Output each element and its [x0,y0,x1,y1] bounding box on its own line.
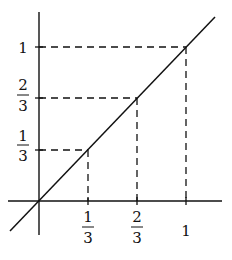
y-label-2-3: 2 3 [17,76,29,115]
x-label-2-3: 2 3 [131,208,143,247]
x-label-1: 1 [181,222,191,240]
x-label-2-3-den: 3 [132,229,142,247]
y-label-1-3-num: 1 [18,127,28,145]
identity-diagram: 1 3 2 3 1 1 3 2 3 1 [0,0,232,260]
identity-line [10,17,215,231]
x-label-2-3-num: 2 [132,208,142,226]
x-label-1-3-den: 3 [83,229,93,247]
y-label-1: 1 [18,39,28,57]
x-label-1-3-num: 1 [83,208,93,226]
y-label-2-3-den: 3 [18,97,28,115]
x-label-1-3: 1 3 [82,208,94,247]
y-label-2-3-num: 2 [18,76,28,94]
y-label-1-3-den: 3 [18,147,28,165]
y-label-1-3: 1 3 [17,127,29,165]
